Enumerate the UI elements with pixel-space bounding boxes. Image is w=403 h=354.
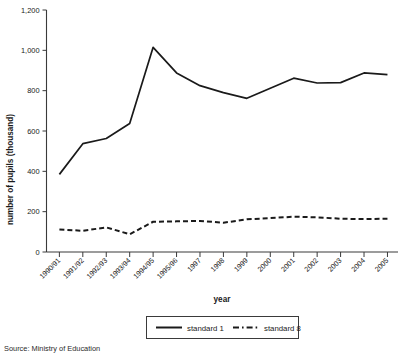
x-axis-ticks <box>59 252 387 257</box>
x-tick-label: 1991/92 <box>61 256 86 281</box>
legend-label-standard-1: standard 1 <box>187 324 224 333</box>
x-tick-label: 1993/94 <box>108 256 133 281</box>
x-tick-label: 1994/95 <box>131 256 156 281</box>
y-axis-title: number of pupils (thousand) <box>6 114 15 225</box>
y-tick-label: 1,200 <box>21 6 40 15</box>
y-tick-label: 400 <box>27 167 39 176</box>
x-tick-label: 2001 <box>279 256 297 274</box>
chart-figure: number of pupils (thousand) 020040060080… <box>0 0 403 354</box>
source-note: Source: Ministry of Education <box>4 344 100 353</box>
x-tick-label: 1998 <box>209 256 227 274</box>
series-line-standard-8 <box>59 217 387 235</box>
x-axis-labels: 1990/911991/921992/931993/941994/951995/… <box>38 256 391 281</box>
y-tick-label: 800 <box>27 86 39 95</box>
x-tick-label: 1997 <box>185 256 203 274</box>
x-tick-label: 1999 <box>232 256 250 274</box>
data-series-group <box>59 47 387 234</box>
x-tick-label: 1990/91 <box>38 256 63 281</box>
series-line-standard-1 <box>59 47 387 174</box>
legend-label-standard-8: standard 8 <box>264 324 301 333</box>
x-tick-label: 2003 <box>326 256 344 274</box>
y-tick-label: 200 <box>27 207 39 216</box>
x-axis-title: year <box>214 295 232 304</box>
line-chart: number of pupils (thousand) 020040060080… <box>0 0 403 354</box>
y-tick-label: 600 <box>27 127 39 136</box>
chart-legend: standard 1 standard 8 <box>147 317 301 339</box>
x-tick-label: 2005 <box>373 256 391 274</box>
x-tick-label: 1992/93 <box>84 256 109 281</box>
x-tick-label: 2004 <box>349 256 367 274</box>
y-tick-label: 0 <box>35 248 39 257</box>
y-tick-label: 1,000 <box>21 46 40 55</box>
x-tick-label: 2002 <box>302 256 320 274</box>
x-tick-label: 2000 <box>256 256 274 274</box>
y-axis-ticks: 02004006008001,0001,200 <box>21 6 47 257</box>
x-tick-label: 1995/96 <box>155 256 180 281</box>
